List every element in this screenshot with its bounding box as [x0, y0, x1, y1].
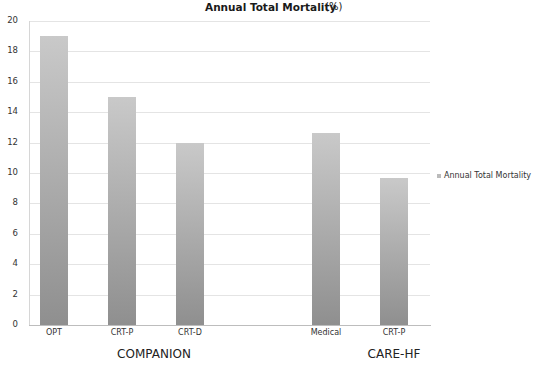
x-axis-line: [29, 325, 431, 326]
gridline: [30, 51, 430, 52]
y-tick-label: 18: [0, 45, 18, 55]
gridline: [30, 203, 430, 204]
group-label-care-hf: CARE-HF: [324, 347, 464, 361]
gridline: [30, 234, 430, 235]
bar-crt-p: [108, 97, 136, 325]
x-tick-label: CRT-P: [364, 328, 424, 337]
legend: Annual Total Mortality: [437, 171, 531, 180]
gridline: [30, 173, 430, 174]
x-tick-label: CRT-P: [92, 328, 152, 337]
y-tick-label: 6: [0, 228, 18, 238]
bar-medical: [312, 133, 340, 325]
y-tick-label: 16: [0, 76, 18, 86]
gridline: [30, 82, 430, 83]
group-label-companion: COMPANION: [84, 347, 224, 361]
chart-title-unit: (%): [325, 1, 342, 12]
y-tick-label: 10: [0, 167, 18, 177]
gridline: [30, 264, 430, 265]
y-tick-label: 0: [0, 319, 18, 329]
y-tick-label: 2: [0, 289, 18, 299]
legend-swatch: [437, 174, 441, 178]
y-tick-label: 12: [0, 137, 18, 147]
x-tick-label: OPT: [24, 328, 84, 337]
x-tick-label: CRT-D: [160, 328, 220, 337]
chart-title-text: Annual Total Mortality: [205, 1, 336, 13]
gridline: [30, 21, 430, 22]
legend-label: Annual Total Mortality: [444, 171, 531, 180]
y-tick-label: 14: [0, 106, 18, 116]
y-tick-label: 4: [0, 258, 18, 268]
y-tick-label: 8: [0, 197, 18, 207]
x-tick-label: Medical: [296, 328, 356, 337]
gridline: [30, 143, 430, 144]
bar-crt-d: [176, 143, 204, 325]
bar-crt-p: [380, 178, 408, 325]
gridline: [30, 295, 430, 296]
bar-opt: [40, 36, 68, 325]
y-tick-label: 20: [0, 15, 18, 25]
bar-chart: Annual Total Mortality (%) 0246810121416…: [0, 0, 542, 365]
gridline: [30, 112, 430, 113]
